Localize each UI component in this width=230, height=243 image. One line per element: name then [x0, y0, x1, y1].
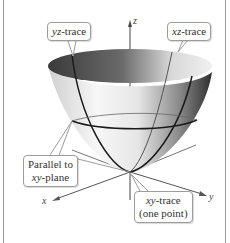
parallel-plane-callout: Parallel toxy-plane: [23, 155, 78, 187]
z-axis-label: z: [133, 15, 137, 26]
xz-trace-callout: xz-trace: [167, 22, 211, 41]
xy-trace-callout: xy-trace(one point): [134, 191, 193, 223]
x-axis-label: x: [42, 195, 46, 206]
y-axis-label: y: [209, 191, 213, 202]
yz-trace-callout: yz-trace: [47, 22, 91, 41]
